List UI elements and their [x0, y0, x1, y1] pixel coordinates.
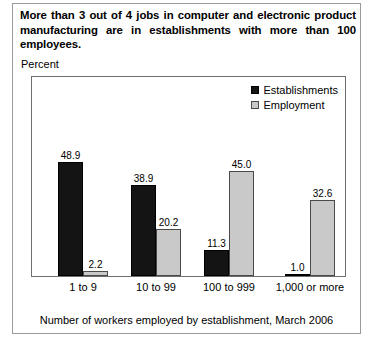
bar-value-label: 2.2	[77, 259, 114, 270]
legend-swatch-establishments	[251, 86, 259, 94]
bar-value-label: 48.9	[52, 150, 89, 161]
bar-value-label: 38.9	[125, 173, 162, 184]
plot-inner: Establishments Employment 48.92.238.920.…	[32, 77, 345, 276]
x-axis-labels: 1 to 910 to 99100 to 9991,000 or more	[31, 281, 346, 313]
legend-swatch-employment	[251, 101, 259, 109]
bar-establishments-1-000-or-more	[285, 274, 310, 276]
bar-value-label: 20.2	[150, 217, 187, 228]
bar-establishments-10-to-99	[131, 185, 156, 276]
bar-establishments-100-to-999	[204, 250, 229, 276]
bar-value-label: 45.0	[223, 159, 260, 170]
legend-label-employment: Employment	[263, 98, 324, 112]
bar-employment-100-to-999	[229, 171, 254, 276]
legend-label-establishments: Establishments	[263, 83, 338, 97]
bar-employment-10-to-99	[156, 229, 181, 276]
bar-employment-1-to-9	[83, 271, 108, 276]
bar-value-label: 32.6	[304, 188, 341, 199]
chart-title: More than 3 out of 4 jobs in computer an…	[20, 8, 356, 52]
y-axis-title: Percent	[21, 58, 59, 71]
chart-card: More than 3 out of 4 jobs in computer an…	[12, 3, 361, 334]
x-tick-label: 100 to 999	[184, 281, 274, 295]
legend-item-establishments: Establishments	[251, 83, 338, 97]
x-tick-label: 1,000 or more	[265, 281, 355, 295]
bar-employment-1-000-or-more	[310, 200, 335, 276]
chart-legend: Establishments Employment	[251, 83, 338, 113]
x-axis-title: Number of workers employed by establishm…	[13, 313, 360, 327]
legend-item-employment: Employment	[251, 98, 338, 112]
plot-area: Establishments Employment 48.92.238.920.…	[31, 76, 346, 277]
